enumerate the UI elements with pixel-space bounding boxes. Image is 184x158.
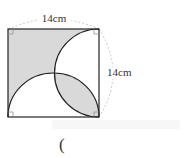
geometry-figure: 14cm 14cm ( [0, 0, 184, 158]
watermark [52, 120, 180, 129]
top-side-label: 14cm [42, 12, 67, 24]
right-side-label: 14cm [107, 66, 132, 78]
answer-parenthesis: ( [59, 135, 65, 154]
